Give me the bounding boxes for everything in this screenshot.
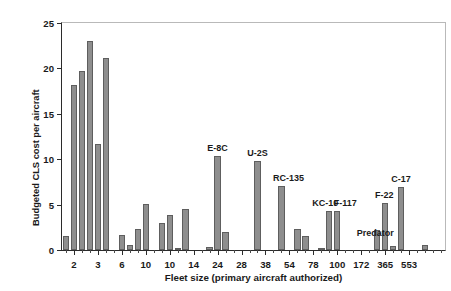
x-tick-mark-minor [162,250,163,253]
x-tick-mark-minor [321,250,322,253]
x-tick-label: 3 [95,259,100,270]
bar [222,232,228,250]
x-tick-mark-major [265,250,266,255]
x-tick-mark-minor [234,250,235,253]
bar [87,41,93,250]
x-tick-mark-major [289,250,290,255]
data-point-annotation: F-22 [375,190,394,200]
x-tick-mark-minor [433,250,434,253]
y-tick-label: 0 [49,245,54,256]
y-tick-mark [57,205,62,206]
x-tick-mark-minor [210,250,211,253]
x-tick-mark-major [98,250,99,255]
x-tick-label: 78 [308,259,319,270]
x-tick-label: 100 [329,259,345,270]
x-tick-mark-minor [226,250,227,253]
bar [294,229,300,250]
bar [175,248,181,250]
x-tick-mark-major [218,250,219,255]
x-tick-mark-minor [257,250,258,253]
x-tick-mark-minor [305,250,306,253]
x-tick-mark-minor [281,250,282,253]
bar [214,156,220,250]
x-tick-mark-minor [345,250,346,253]
bar [334,211,340,250]
bar [143,204,149,250]
x-tick-label: 6 [119,259,124,270]
bar [95,144,101,250]
x-axis-title: Fleet size (primary aircraft authorized) [61,272,446,283]
bar [71,85,77,250]
x-tick-mark-major [361,250,362,255]
y-tick-label: 20 [43,63,54,74]
x-tick-mark-major [122,250,123,255]
x-tick-mark-major [242,250,243,255]
bar [103,58,109,250]
x-tick-mark-minor [130,250,131,253]
y-tick-label: 5 [49,199,54,210]
x-tick-label: 28 [236,259,247,270]
bar [422,245,428,250]
x-tick-label: 10 [164,259,175,270]
bar [167,215,173,250]
x-tick-mark-minor [417,250,418,253]
y-tick-mark [57,159,62,160]
x-tick-mark-minor [353,250,354,253]
bar-chart: Budgeted CLS cost per aircraft in FY 200… [0,0,451,291]
bar [390,246,396,250]
bar [326,211,332,250]
plot-area: 0510152025 23610101424283854781001723655… [61,22,446,251]
x-tick-mark-minor [425,250,426,253]
x-tick-label: 172 [353,259,369,270]
x-tick-mark-minor [441,250,442,253]
x-tick-label: 14 [188,259,199,270]
y-tick-label: 10 [43,154,54,165]
x-tick-mark-minor [393,250,394,253]
y-axis-title-line-1: Budgeted CLS cost per aircraft [30,43,42,273]
x-tick-mark-minor [82,250,83,253]
x-tick-mark-minor [250,250,251,253]
x-tick-mark-minor [202,250,203,253]
x-tick-mark-minor [369,250,370,253]
bar [206,247,212,250]
y-tick-mark [57,250,62,251]
x-tick-label: 38 [260,259,271,270]
x-tick-mark-major [74,250,75,255]
x-tick-mark-minor [329,250,330,253]
x-tick-mark-major [313,250,314,255]
x-tick-label: 553 [401,259,417,270]
x-tick-mark-minor [401,250,402,253]
x-tick-mark-major [170,250,171,255]
x-tick-mark-minor [297,250,298,253]
y-tick-mark [57,23,62,24]
bar [254,161,260,250]
x-tick-label: 2 [71,259,76,270]
data-point-annotation: RC-135 [273,173,304,183]
x-tick-mark-minor [66,250,67,253]
data-point-annotation: Predator [357,228,394,238]
x-tick-mark-minor [90,250,91,253]
x-tick-mark-minor [186,250,187,253]
x-tick-label: 10 [140,259,151,270]
bar [182,209,188,250]
x-tick-mark-major [194,250,195,255]
x-tick-mark-minor [273,250,274,253]
data-point-annotation: F-117 [334,198,357,208]
bar [302,236,308,250]
x-tick-mark-minor [154,250,155,253]
bar [79,71,85,250]
bar [127,245,133,250]
x-tick-mark-minor [178,250,179,253]
bar [318,248,324,250]
bar [63,236,69,250]
y-tick-label: 15 [43,108,54,119]
x-tick-label: 54 [284,259,295,270]
x-tick-mark-minor [377,250,378,253]
y-tick-mark [57,68,62,69]
bar [135,229,141,250]
y-tick-mark [57,114,62,115]
data-point-annotation: C-17 [391,174,411,184]
data-point-annotation: U-2S [247,148,268,158]
bar [278,186,284,250]
x-tick-mark-major [385,250,386,255]
